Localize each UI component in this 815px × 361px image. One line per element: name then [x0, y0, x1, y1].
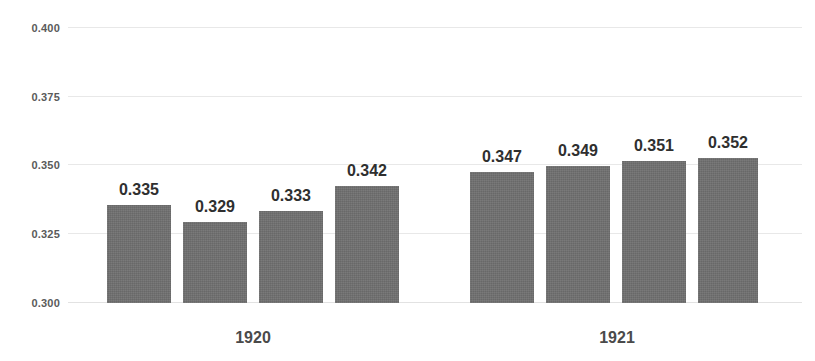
y-axis-tick-label: 0.350: [14, 160, 60, 171]
gridline-0.300: [68, 302, 802, 303]
y-axis-tick-label: 0.300: [14, 298, 60, 309]
gridline-0.400: [68, 27, 802, 28]
bar-value-label: 0.333: [251, 188, 331, 204]
gridline-0.350: [68, 164, 802, 165]
x-axis-group-label-1921: 1921: [567, 330, 667, 346]
y-axis-tick-label: 0.325: [14, 229, 60, 240]
gridline-0.325: [68, 233, 802, 234]
bar[interactable]: [622, 161, 686, 303]
bar-value-label: 0.351: [614, 138, 694, 154]
bar-value-label: 0.329: [175, 199, 255, 215]
y-axis-tick-label: 0.400: [14, 23, 60, 34]
bar[interactable]: [698, 158, 758, 303]
bar[interactable]: [107, 205, 171, 303]
bar-value-label: 0.342: [327, 163, 407, 179]
bar[interactable]: [259, 211, 323, 303]
bar-value-label: 0.347: [462, 149, 542, 165]
bar-value-label: 0.349: [538, 143, 618, 159]
y-axis-tick-label: 0.375: [14, 92, 60, 103]
gridline-0.375: [68, 96, 802, 97]
bar[interactable]: [546, 166, 610, 303]
bar[interactable]: [335, 186, 399, 303]
bar-value-label: 0.335: [99, 182, 179, 198]
x-axis-group-label-1920: 1920: [203, 330, 303, 346]
bar-value-label: 0.352: [688, 135, 768, 151]
plot-area: 0.400 0.375 0.350 0.325 0.300 0.335 0.32…: [0, 0, 815, 361]
bar[interactable]: [470, 172, 534, 303]
bar[interactable]: [183, 222, 247, 303]
bar-chart: 0.400 0.375 0.350 0.325 0.300 0.335 0.32…: [0, 0, 815, 361]
